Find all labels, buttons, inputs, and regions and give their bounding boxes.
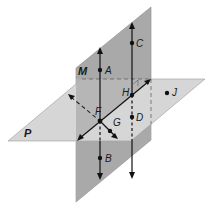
plane-p-label: P <box>24 128 31 139</box>
label-b: B <box>105 154 112 164</box>
diagram-canvas: M P A B C D F G H J <box>0 0 217 213</box>
point-b <box>98 156 102 160</box>
point-a <box>98 68 102 72</box>
label-h: H <box>122 88 129 98</box>
arrow-down-icon <box>129 172 135 179</box>
label-a: A <box>105 66 112 76</box>
label-g: G <box>113 118 121 128</box>
point-h <box>130 93 134 97</box>
point-c <box>130 41 134 45</box>
point-g <box>108 129 112 133</box>
label-c: C <box>136 39 143 49</box>
plane-m-label: M <box>78 66 87 77</box>
planes-diagram <box>0 0 217 213</box>
point-d <box>130 115 134 119</box>
point-f <box>98 119 103 124</box>
label-f: F <box>95 107 101 117</box>
point-j <box>165 91 169 95</box>
label-j: J <box>172 88 177 98</box>
label-d: D <box>136 113 143 123</box>
